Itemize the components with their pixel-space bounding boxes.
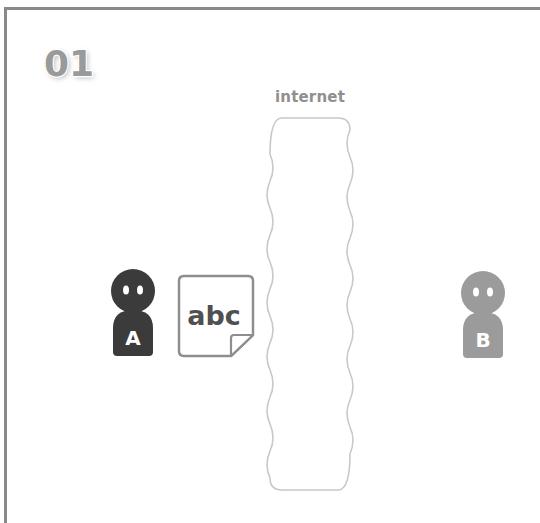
person-a: A <box>108 268 158 362</box>
eye-icon <box>487 288 493 297</box>
document-text: abc <box>187 300 241 331</box>
eye-icon <box>123 286 129 295</box>
frame-top-border <box>5 7 540 10</box>
step-number-badge: 01 01 <box>42 40 102 86</box>
person-b-label: B <box>475 328 490 352</box>
step-number-text: 01 <box>44 43 94 84</box>
person-b: B <box>458 270 508 364</box>
folded-corner-icon <box>231 335 253 356</box>
document-icon: abc <box>176 273 256 359</box>
frame-left-border <box>4 7 7 523</box>
person-a-label: A <box>125 326 141 350</box>
internet-cloud <box>262 112 358 496</box>
eye-icon <box>137 286 143 295</box>
eye-icon <box>473 288 479 297</box>
internet-label: internet <box>270 88 350 106</box>
